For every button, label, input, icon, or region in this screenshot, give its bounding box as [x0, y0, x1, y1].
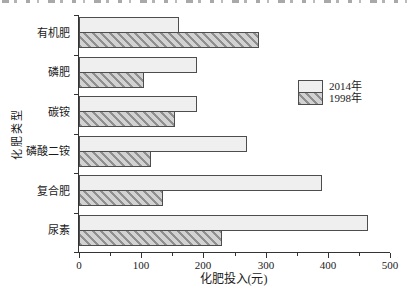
bar-1998: [79, 32, 259, 48]
bar-chart-figure: 化肥类型 有机肥磷肥碳铵磷酸二铵复合肥尿素 0100200300400500 化…: [0, 0, 412, 296]
x-axis-minor-tick: [359, 253, 360, 256]
x-axis-tick: [141, 253, 142, 258]
legend-label-1998: 1998年: [329, 92, 362, 105]
x-tick-label: 300: [258, 259, 275, 271]
clipped-text-remnant: [2, 0, 410, 3]
bar-2014: [79, 215, 368, 231]
bar-2014: [79, 175, 322, 191]
y-axis-tick: [74, 134, 78, 135]
x-axis-minor-tick: [297, 253, 298, 256]
legend-swatch-1998-icon: [298, 92, 323, 105]
x-axis-tick: [328, 253, 329, 258]
x-axis-tick: [203, 253, 204, 258]
x-tick-label: 0: [76, 259, 82, 271]
x-tick-label: 400: [320, 259, 337, 271]
x-tick-label: 500: [382, 259, 399, 271]
y-axis-tick: [74, 94, 78, 95]
x-tick-label: 200: [195, 259, 212, 271]
category-label: 磷酸二铵: [0, 144, 74, 158]
legend-entry-1998: 1998年: [298, 92, 362, 105]
x-axis-minor-tick: [110, 253, 111, 256]
bar-2014: [79, 96, 197, 112]
category-label: 复合肥: [0, 184, 74, 198]
y-axis-tick: [74, 55, 78, 56]
category-label: 磷肥: [0, 65, 74, 79]
x-axis-tick: [79, 253, 80, 258]
category-label: 碳铵: [0, 105, 74, 119]
plot-area: 0100200300400500: [78, 15, 390, 253]
x-axis-minor-tick: [172, 253, 173, 256]
y-axis-tick: [74, 252, 78, 253]
x-axis-minor-tick: [235, 253, 236, 256]
category-labels: 有机肥磷肥碳铵磷酸二铵复合肥尿素: [0, 15, 74, 252]
bar-1998: [79, 111, 175, 127]
bar-2014: [79, 17, 179, 33]
x-tick-label: 100: [133, 259, 150, 271]
bar-2014: [79, 57, 197, 73]
bar-2014: [79, 136, 247, 152]
legend: 2014年 1998年: [298, 80, 362, 105]
bar-1998: [79, 151, 151, 167]
y-axis-tick: [74, 15, 78, 16]
category-label: 尿素: [0, 223, 74, 237]
bar-1998: [79, 190, 163, 206]
y-axis-tick: [74, 213, 78, 214]
bar-1998: [79, 230, 222, 246]
category-label: 有机肥: [0, 26, 74, 40]
x-axis-tick: [390, 253, 391, 258]
x-axis-tick: [266, 253, 267, 258]
bar-1998: [79, 72, 144, 88]
y-axis-tick: [74, 173, 78, 174]
x-axis-title: 化肥投入(元): [78, 272, 389, 286]
